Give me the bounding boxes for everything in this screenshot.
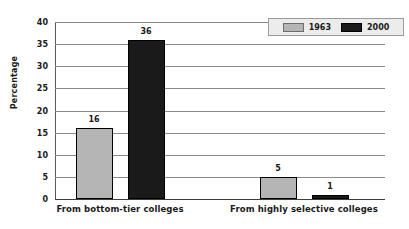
legend-entry-2000[interactable]: 2000 [341,23,389,32]
y-tick-label: 15 [8,128,48,137]
y-tick-label: 0 [8,195,48,204]
y-tick-label: 25 [8,84,48,93]
legend-entry-1963[interactable]: 1963 [283,23,331,32]
y-tick-label: 30 [8,62,48,71]
bar-2000-bottom-tier[interactable] [128,40,165,199]
legend: 1963 2000 [268,18,404,36]
bar-value-label: 1 [327,182,333,191]
y-tick-label: 20 [8,106,48,115]
legend-label-2000: 2000 [367,23,389,32]
gridline [55,66,385,67]
bar-value-label: 5 [275,164,281,173]
gridline [55,88,385,89]
bar-2000-highly-selective[interactable] [312,195,349,199]
x-category-label-highly-selective: From highly selective colleges [230,204,378,214]
legend-swatch-icon-2000 [341,23,362,32]
x-category-label-bottom-tier: From bottom-tier colleges [56,204,183,214]
bar-value-label: 16 [88,115,99,124]
legend-swatch-icon-1963 [283,23,304,32]
legend-label-1963: 1963 [309,23,331,32]
y-tick-label: 10 [8,150,48,159]
bar-chart: Percentage 0510152025303540 163651 From … [0,0,409,229]
bar-value-label: 36 [140,27,151,36]
axis-baseline [55,199,385,200]
gridline [55,111,385,112]
bar-1963-bottom-tier[interactable] [76,128,113,199]
plot-area: 163651 [55,22,385,199]
gridline [55,44,385,45]
y-tick-label: 5 [8,172,48,181]
y-tick-label: 35 [8,40,48,49]
y-tick-label: 40 [8,18,48,27]
bar-1963-highly-selective[interactable] [260,177,297,199]
